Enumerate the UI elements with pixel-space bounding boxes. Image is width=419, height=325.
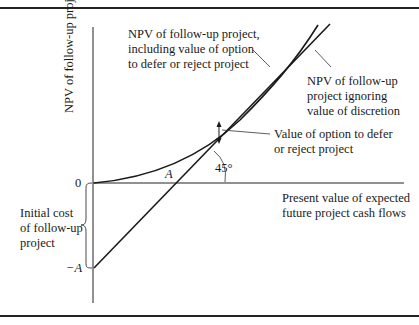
x-axis-label-line: future project cash flows bbox=[282, 206, 410, 221]
brace-label-line: of follow-up bbox=[20, 221, 83, 236]
curve-label-line: including value of option bbox=[128, 42, 260, 57]
line-label: NPV of follow-up project ignoring value … bbox=[307, 74, 400, 119]
line-label-line: project ignoring bbox=[307, 89, 400, 104]
brace-label: Initial cost of follow-up project bbox=[20, 206, 83, 251]
curve-label: NPV of follow-up project, including valu… bbox=[128, 27, 260, 72]
gap-label: Value of option to defer or reject proje… bbox=[274, 127, 393, 157]
curve-label-line: to defer or reject project bbox=[128, 57, 260, 72]
angle-label: 45° bbox=[215, 161, 233, 176]
brace-label-line: Initial cost bbox=[20, 206, 83, 221]
y-axis-label: NPV of follow-up project bbox=[62, 0, 77, 113]
x-axis-label-line: Present value of expected bbox=[282, 191, 410, 206]
brace-label-line: project bbox=[20, 236, 83, 251]
arrow-head-up-icon bbox=[217, 121, 222, 127]
line-label-line: value of discretion bbox=[307, 104, 400, 119]
origin-label: 0 bbox=[75, 176, 81, 191]
line-leader-line bbox=[315, 50, 331, 67]
x-crossing-label: A bbox=[165, 167, 173, 182]
line-label-line: NPV of follow-up bbox=[307, 74, 400, 89]
curve-label-line: NPV of follow-up project, bbox=[128, 27, 260, 42]
gap-label-line: Value of option to defer bbox=[274, 127, 393, 142]
gap-label-line: or reject project bbox=[274, 142, 393, 157]
gap-leader-line bbox=[222, 130, 270, 134]
x-axis-label: Present value of expected future project… bbox=[282, 191, 410, 221]
intercept-label: −A bbox=[66, 261, 82, 276]
